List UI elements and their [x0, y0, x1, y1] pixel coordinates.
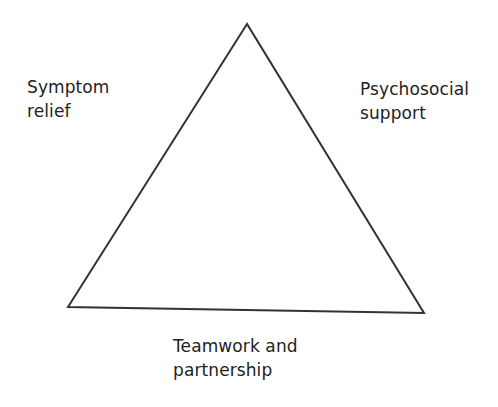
label-psychosocial-support: Psychosocial support: [360, 77, 469, 125]
triangle-shape: [68, 24, 424, 313]
label-symptom-relief: Symptom relief: [27, 75, 110, 123]
label-teamwork-partnership: Teamwork and partnership: [173, 334, 298, 382]
